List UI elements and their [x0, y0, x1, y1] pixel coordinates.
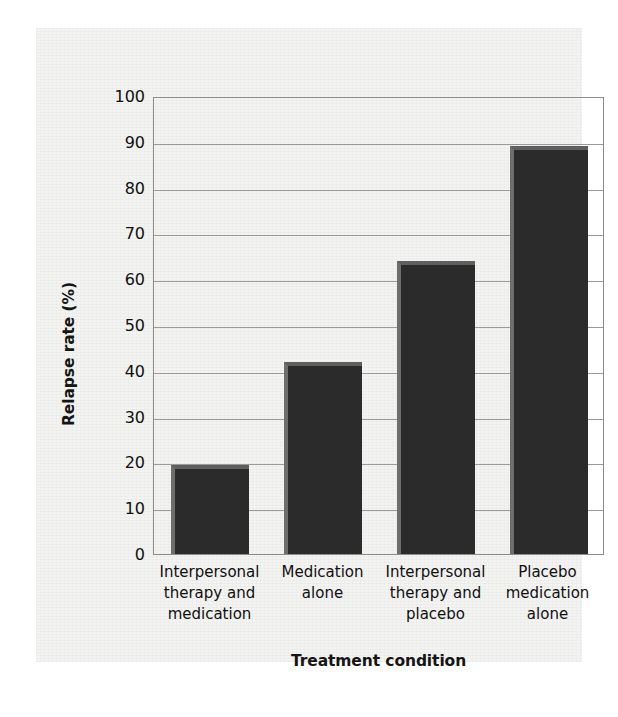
bar — [171, 465, 249, 554]
y-axis-tick-label: 10 — [99, 501, 145, 517]
x-axis-tick-label-line: medication — [153, 604, 266, 625]
y-axis-tick-label: 70 — [99, 226, 145, 242]
x-axis-tick-label-line: medication — [491, 583, 604, 604]
x-axis-tick-label-line: Interpersonal — [379, 562, 492, 583]
x-axis-tick-label: Placebomedicationalone — [491, 562, 604, 625]
gridline — [154, 144, 603, 145]
x-axis-title: Treatment condition — [153, 652, 604, 670]
y-axis-tick-label: 60 — [99, 272, 145, 288]
y-axis-tick-labels: 0102030405060708090100 — [95, 97, 145, 555]
y-axis-tick-label: 30 — [99, 410, 145, 426]
x-axis-tick-label-line: placebo — [379, 604, 492, 625]
y-axis-tick-label: 20 — [99, 455, 145, 471]
bar — [284, 362, 362, 554]
x-axis-tick-label-line: therapy and — [379, 583, 492, 604]
bar — [510, 146, 588, 554]
x-axis-tick-label: Interpersonaltherapy andplacebo — [379, 562, 492, 625]
x-axis-tick-label: Interpersonaltherapy andmedication — [153, 562, 266, 625]
y-axis-tick-label: 0 — [99, 547, 145, 563]
y-axis-tick-label: 100 — [99, 89, 145, 105]
x-axis-tick-label-line: therapy and — [153, 583, 266, 604]
x-axis-tick-label: Medicationalone — [266, 562, 379, 604]
y-axis-tick-label: 90 — [99, 135, 145, 151]
x-axis-tick-label-line: alone — [266, 583, 379, 604]
y-axis-tick-label: 50 — [99, 318, 145, 334]
figure-panel: Relapse rate (%) 0102030405060708090100 … — [36, 28, 582, 662]
y-axis-tick-label: 40 — [99, 364, 145, 380]
plot-area — [153, 97, 604, 555]
y-axis-title: Relapse rate (%) — [56, 204, 82, 504]
x-axis-tick-label-line: alone — [491, 604, 604, 625]
y-axis-tick-label: 80 — [99, 181, 145, 197]
bar — [397, 261, 475, 554]
x-axis-tick-labels: Interpersonaltherapy andmedicationMedica… — [153, 562, 604, 648]
x-axis-tick-label-line: Interpersonal — [153, 562, 266, 583]
x-axis-tick-label-line: Placebo — [491, 562, 604, 583]
x-axis-tick-label-line: Medication — [266, 562, 379, 583]
